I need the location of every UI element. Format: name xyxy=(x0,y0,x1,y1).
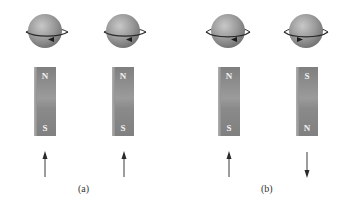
spinning-electron-icon xyxy=(284,14,328,48)
panel-label-b: (b) xyxy=(261,184,273,194)
magnet-north-label: N xyxy=(120,71,127,81)
magnet-north-label: N xyxy=(226,71,233,81)
diagram-graphics: N S N S xyxy=(0,0,351,205)
magnet-north-label: N xyxy=(304,123,311,133)
bar-magnet-icon: N S xyxy=(34,67,56,136)
arrow-up-icon xyxy=(43,151,48,177)
magnet-north-label: N xyxy=(42,71,49,81)
bar-magnet-icon: S N xyxy=(296,67,318,136)
magnet-south-label: S xyxy=(304,71,309,81)
panel-a-item-1: N S xyxy=(26,14,68,177)
arrow-up-icon xyxy=(227,151,232,177)
electron-spin-diagram: N S N S xyxy=(0,0,351,205)
arrow-up-icon xyxy=(122,151,127,177)
bar-magnet-icon: N S xyxy=(112,67,134,136)
arrow-down-icon xyxy=(305,152,310,178)
magnet-south-label: S xyxy=(42,123,47,133)
magnet-south-label: S xyxy=(226,123,231,133)
magnet-south-label: S xyxy=(120,123,125,133)
panel-b-item-1: N S xyxy=(206,14,250,177)
spinning-electron-icon xyxy=(26,14,68,48)
panel-a-item-2: N S xyxy=(104,14,146,177)
panel-b-item-2: S N xyxy=(284,14,328,178)
spinning-electron-icon xyxy=(206,14,250,48)
bar-magnet-icon: N S xyxy=(218,67,240,136)
panel-label-a: (a) xyxy=(78,184,89,194)
spinning-electron-icon xyxy=(104,14,146,48)
